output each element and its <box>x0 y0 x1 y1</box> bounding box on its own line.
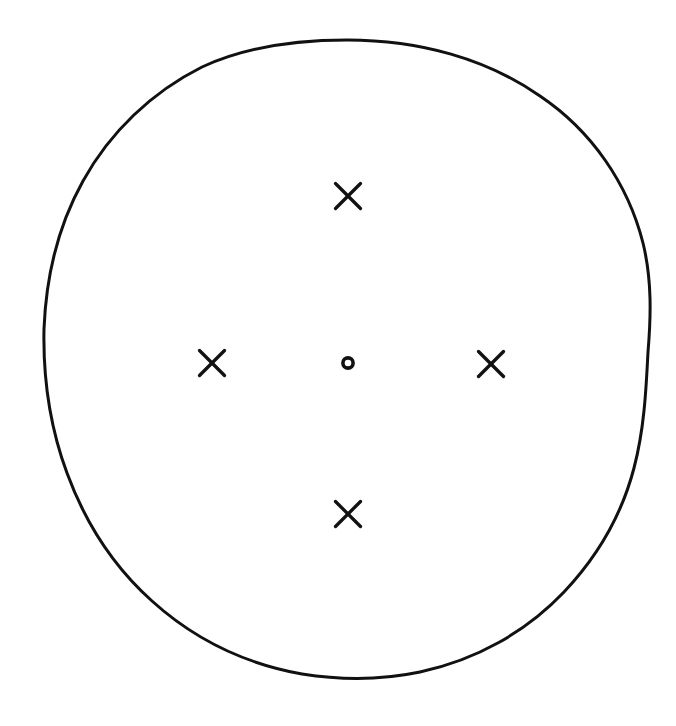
figure-background <box>0 0 676 726</box>
diagram-figure <box>0 0 676 726</box>
diagram-canvas: Hand-drawn circle with cross-arranged X … <box>0 0 676 726</box>
